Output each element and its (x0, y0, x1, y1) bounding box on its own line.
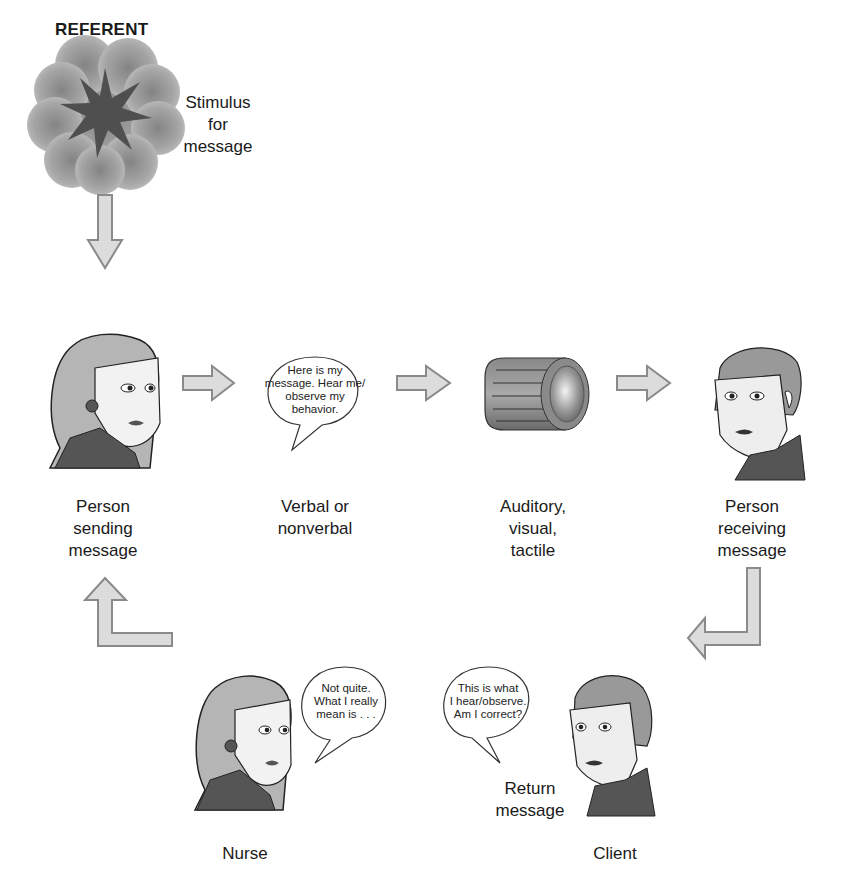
return-message-label: Return message (480, 778, 580, 822)
nurse-label: Nurse (200, 843, 290, 865)
nurse-bubble-text: Not quite. What I really mean is . . . (300, 682, 392, 721)
down-arrow (88, 195, 122, 268)
message-bubble-text: Here is my message. Hear me/ observe my … (256, 364, 374, 416)
referent-cloud-icon (0, 0, 848, 878)
stimulus-label: Stimulus for message (178, 92, 258, 158)
nurse-illustration (195, 676, 291, 810)
client-bubble-text: This is what I hear/observe. Am I correc… (438, 682, 538, 721)
receiver-caption: Person receiving message (677, 496, 827, 562)
sender-woman-illustration (50, 334, 160, 468)
sender-caption: Person sending message (28, 496, 178, 562)
receiver-man-illustration (715, 348, 805, 480)
message-caption: Verbal or nonverbal (240, 496, 390, 540)
medium-caption: Auditory, visual, tactile (458, 496, 608, 562)
client-illustration (570, 676, 655, 816)
medium-cylinder-illustration (485, 358, 589, 430)
client-label: Client (570, 843, 660, 865)
